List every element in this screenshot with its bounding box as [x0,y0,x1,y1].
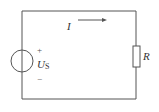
voltage-source: + − US [11,45,49,84]
plus-sign: + [37,45,42,55]
wires [22,11,136,99]
source-label: US [37,58,49,71]
current-label: I [66,20,72,32]
circuit-diagram: + − US R I [0,0,159,112]
current-indicator: I [66,18,107,32]
arrow-right-icon [102,18,107,22]
resistor-icon [133,46,140,67]
resistor: R [133,46,150,67]
resistor-label: R [142,50,150,62]
minus-sign: − [37,74,42,84]
